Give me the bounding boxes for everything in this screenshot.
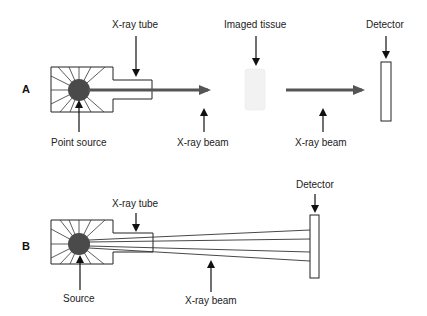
point-source-dot	[68, 79, 90, 101]
label-detector-a: Detector	[366, 19, 404, 30]
panel-a-letter: A	[22, 83, 30, 95]
panel-a-detector	[381, 62, 391, 121]
label-point-source: Point source	[51, 137, 107, 148]
imaged-tissue-shape	[245, 69, 265, 110]
label-xray-tube-a: X-ray tube	[112, 19, 158, 30]
diagram-canvas	[0, 0, 427, 316]
label-xray-beam-a2: X-ray beam	[295, 137, 347, 148]
panel-b-detector	[310, 215, 319, 278]
label-xray-beam-a1: X-ray beam	[177, 137, 229, 148]
label-detector-b: Detector	[296, 179, 334, 190]
label-xray-beam-b: X-ray beam	[185, 295, 237, 306]
label-imaged-tissue: Imaged tissue	[224, 19, 286, 30]
panel-b-letter: B	[22, 240, 30, 252]
label-xray-tube-b: X-ray tube	[112, 198, 158, 209]
source-dot	[68, 233, 90, 255]
label-source: Source	[63, 293, 95, 304]
